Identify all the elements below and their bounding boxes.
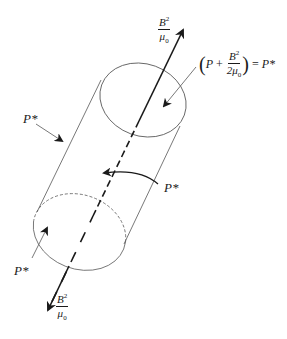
numerator: B <box>57 293 64 305</box>
top-tension-label: B2 μ0 <box>158 16 170 45</box>
arrow-inward-icon <box>32 228 47 258</box>
arrow-inward-icon <box>104 172 158 184</box>
equals-sign: = <box>252 58 259 70</box>
open-paren: ( <box>199 54 206 74</box>
gas-pressure: P <box>206 58 213 70</box>
external-pressure-right-label: P* <box>164 181 178 194</box>
bottom-cross-section-visible <box>33 222 125 270</box>
close-paren: ) <box>242 54 249 74</box>
numerator: B <box>159 16 166 28</box>
external-pressure-bottom-label: P* <box>14 264 28 277</box>
magnetic-pressure-fraction: B2 2μ0 <box>227 50 242 79</box>
bottom-tension-label: B2 μ0 <box>56 293 68 322</box>
field-axis-hidden <box>93 121 139 216</box>
top-cross-section <box>89 51 196 149</box>
superscript: 2 <box>166 15 170 23</box>
bottom-cross-section-hidden <box>34 194 126 242</box>
denominator: 2μ <box>227 64 238 76</box>
superscript: 2 <box>236 49 240 57</box>
cylinder-left-edge <box>37 80 101 212</box>
external-pressure-left-label: P* <box>23 112 37 125</box>
subscript: 0 <box>238 71 242 79</box>
arrow-inward-icon <box>36 124 62 141</box>
subscript: 0 <box>165 37 169 45</box>
superscript: 2 <box>64 292 68 300</box>
subscript: 0 <box>63 314 67 322</box>
pressure-balance-equation: ( P + B2 2μ0 ) = P* <box>199 50 275 79</box>
numerator: B <box>229 50 236 62</box>
total-pressure: P* <box>262 58 275 70</box>
plus-sign: + <box>216 58 223 70</box>
